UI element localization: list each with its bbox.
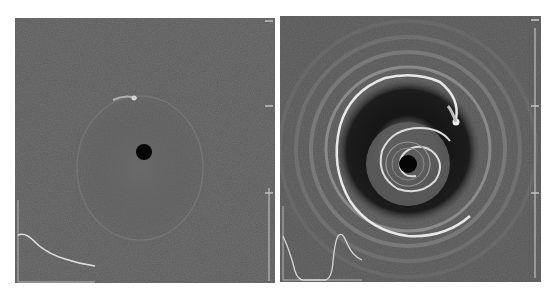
left-density-map (15, 18, 275, 283)
left-planet (132, 96, 137, 101)
right-density-map (280, 16, 541, 282)
left-disk-glow (70, 88, 210, 248)
right-central-star-hole (399, 155, 417, 173)
left-density-panel (15, 18, 275, 283)
left-central-star-hole (136, 144, 152, 160)
right-density-panel (280, 16, 541, 282)
